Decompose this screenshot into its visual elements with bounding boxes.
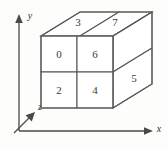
- figure-canvas: y x z: [0, 0, 167, 150]
- y-axis-arrowhead: [15, 14, 23, 23]
- cube-group: 0 6 2 4 3 7 5: [41, 12, 152, 108]
- x-axis: x: [19, 123, 162, 135]
- cube-label-front-bottom-right: 4: [92, 84, 98, 96]
- cube-label-front-bottom-left: 2: [56, 84, 62, 96]
- z-axis: z: [14, 101, 42, 133]
- cube-label-top-right: 7: [112, 16, 118, 28]
- octant-cube-figure: y x z: [0, 0, 167, 150]
- x-axis-label: x: [156, 123, 162, 134]
- y-axis: y: [15, 10, 33, 131]
- cube-label-front-top-left: 0: [56, 48, 62, 60]
- y-axis-label: y: [27, 10, 33, 21]
- cube-label-top-left: 3: [75, 16, 81, 28]
- cube-label-side-lower: 5: [131, 72, 137, 84]
- x-axis-arrowhead: [144, 127, 153, 135]
- cube-label-front-top-right: 6: [92, 48, 98, 60]
